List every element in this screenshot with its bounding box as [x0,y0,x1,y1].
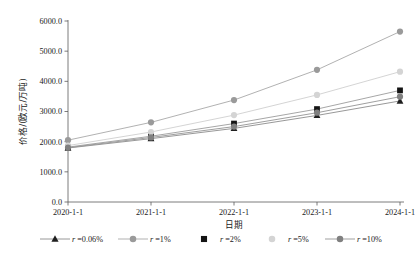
data-point-circle [397,28,403,34]
x-tick-label: 2024-1-1 [385,208,415,217]
data-point-circle [231,97,237,103]
legend-label-3: r =5% [288,235,309,244]
data-point-square [397,87,403,93]
data-point-circle [65,145,71,151]
data-point-circle [314,67,320,73]
y-tick-label: 1000.0 [39,168,62,177]
x-tick-label: 2022-1-1 [219,208,249,217]
y-tick-label: 2000.0 [39,138,62,147]
y-tick-label: 0.0 [52,198,62,207]
line-chart: 0.01000.02000.03000.04000.05000.06000.02… [0,0,416,254]
x-tick-label: 2021-1-1 [136,208,166,217]
data-point-circle [397,69,403,75]
legend-marker-4 [337,236,344,243]
data-point-circle [314,110,320,116]
legend-marker-3 [269,236,276,243]
chart-container: 0.01000.02000.03000.04000.05000.06000.02… [0,0,416,254]
y-axis-title: 价格/(欧元/万吨) [17,78,28,145]
data-point-circle [148,134,154,140]
legend-item-2[interactable]: r =2% [201,235,241,244]
data-point-circle [148,129,154,135]
x-tick-label: 2020-1-1 [53,208,83,217]
legend-label-4: r =10% [357,235,382,244]
data-point-circle [231,112,237,118]
legend-item-3[interactable]: r =5% [269,235,309,244]
x-axis-title: 日期 [225,220,243,230]
legend-marker-1 [130,236,137,243]
y-tick-label: 4000.0 [39,77,62,86]
legend-item-1[interactable]: r =1% [118,235,171,244]
series-line-3 [68,72,400,146]
data-point-circle [397,94,403,100]
legend-item-0[interactable]: r =0.06% [40,235,103,244]
data-point-circle [148,119,154,125]
legend-marker-2 [201,236,207,242]
legend-label-0: r =0.06% [72,235,103,244]
legend-label-1: r =1% [150,235,171,244]
data-point-circle [231,123,237,129]
data-point-circle [65,137,71,143]
y-tick-label: 3000.0 [39,107,62,116]
legend-marker-0 [51,235,58,242]
x-tick-label: 2023-1-1 [302,208,332,217]
legend-item-4[interactable]: r =10% [325,235,382,244]
legend-label-2: r =2% [220,235,241,244]
y-tick-label: 5000.0 [39,47,62,56]
y-tick-label: 6000.0 [39,17,62,26]
data-point-circle [314,92,320,98]
